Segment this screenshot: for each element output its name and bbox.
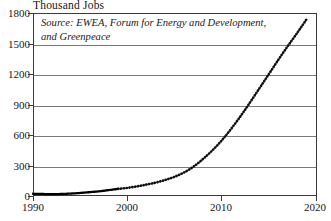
x-tick-mark-2010 <box>221 196 222 201</box>
x-tick-mark-2020 <box>316 196 317 201</box>
source-annotation: Source: EWEA, Forum for Energy and Devel… <box>41 16 281 43</box>
x-tick-mark-2000 <box>127 196 128 201</box>
x-tick-label-1990: 1990 <box>11 201 55 213</box>
x-tick-label-2000: 2000 <box>105 201 149 213</box>
x-tick-label-2020: 2020 <box>293 201 331 213</box>
x-tick-label-2010: 2010 <box>199 201 243 213</box>
x-tick-mark-1990 <box>33 196 34 201</box>
